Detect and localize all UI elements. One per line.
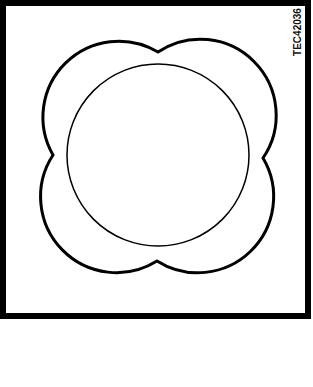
diagram: [0, 0, 313, 387]
figure-code-text: TEC42036: [292, 8, 303, 56]
figure-code-label: TEC42036: [289, 4, 305, 60]
